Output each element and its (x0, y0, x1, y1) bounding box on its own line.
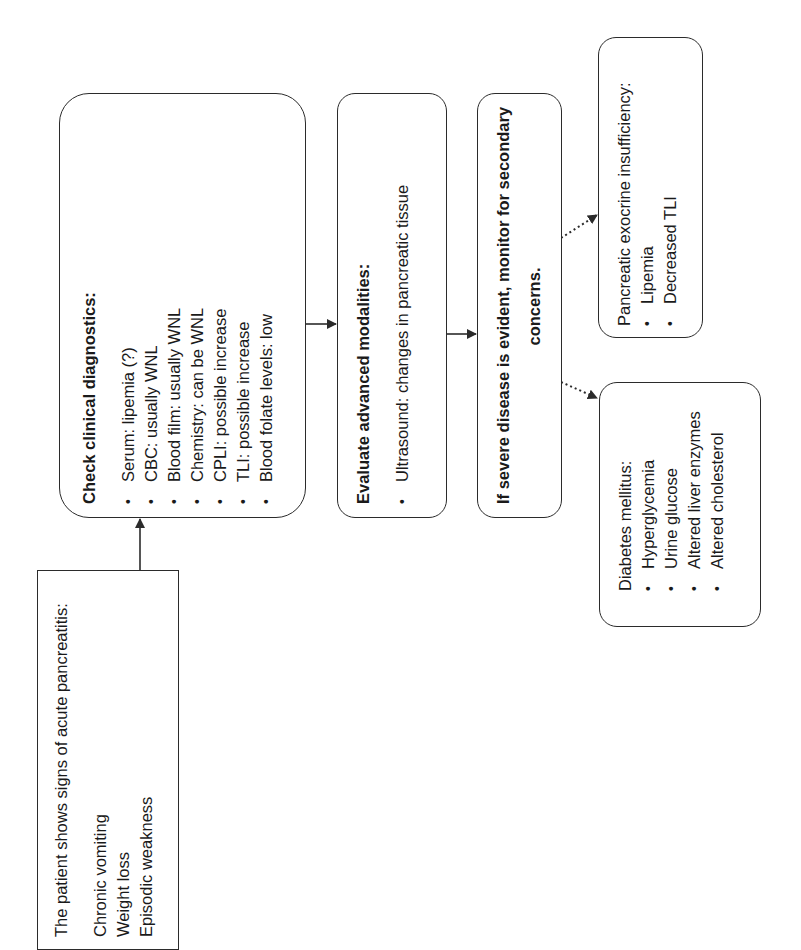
bullet-icon: • (391, 482, 414, 504)
bullet-icon: • (659, 304, 682, 326)
diabetes-item: Hyperglycemia (637, 460, 660, 569)
bullet-icon: • (232, 482, 255, 504)
diabetes-title: Diabetes mellitus: (614, 411, 637, 591)
bullet-icon: • (637, 569, 660, 591)
severe-disease-title-line1: If severe disease is evident, monitor fo… (492, 109, 515, 504)
exocrine-item: Decreased TLI (659, 196, 682, 304)
diagnostic-item: Serum: lipemia (?) (117, 347, 140, 482)
bullet-icon: • (140, 482, 163, 504)
modality-item: Ultrasound: changes in pancreatic tissue (391, 185, 414, 482)
diagnostic-item: Blood film: usually WNL (163, 308, 186, 482)
diagnostic-item: Blood folate levels: low (255, 314, 278, 482)
diabetes-item: Urine glucose (660, 468, 683, 569)
diagnostic-item: Chemistry: can be WNL (186, 308, 209, 482)
bullet-icon: • (209, 482, 232, 504)
bullet-icon: • (660, 569, 683, 591)
severe-disease-title-line2: concerns. (515, 109, 546, 504)
exocrine-item: Lipemia (636, 246, 659, 304)
symptom-item: Episodic weakness (135, 603, 158, 937)
clinical-diagnostics-box: Check clinical diagnostics: •Serum: lipe… (59, 93, 306, 518)
symptom-item: Weight loss (112, 603, 135, 937)
diagnostic-item: CBC: usually WNL (140, 345, 163, 482)
bullet-icon: • (636, 304, 659, 326)
bullet-icon: • (117, 482, 140, 504)
diabetes-box: Diabetes mellitus: •Hyperglycemia •Urine… (599, 382, 761, 627)
dotted-arrow-to-diabetes (561, 382, 597, 398)
bullet-icon: • (163, 482, 186, 504)
diabetes-item: Altered liver enzymes (683, 411, 706, 569)
patient-signs-box: The patient shows signs of acute pancrea… (37, 570, 179, 950)
exocrine-insufficiency-box: Pancreatic exocrine insufficiency: •Lipe… (598, 37, 703, 338)
diagnostic-item: CPLI: possible increase (209, 309, 232, 482)
bullet-icon: • (706, 569, 729, 591)
bullet-icon: • (683, 569, 706, 591)
exocrine-insufficiency-title: Pancreatic exocrine insufficiency: (613, 82, 636, 326)
advanced-modalities-box: Evaluate advanced modalities: •Ultrasoun… (337, 93, 447, 518)
severe-disease-box: If severe disease is evident, monitor fo… (477, 93, 562, 518)
patient-signs-title: The patient shows signs of acute pancrea… (50, 603, 73, 937)
bullet-icon: • (186, 482, 209, 504)
advanced-modalities-title: Evaluate advanced modalities: (352, 185, 375, 504)
diabetes-item: Altered cholesterol (706, 432, 729, 569)
diagnostic-item: TLI: possible increase (232, 322, 255, 483)
bullet-icon: • (255, 482, 278, 504)
dotted-arrow-to-exocrine (561, 215, 597, 238)
symptom-item: Chronic vomiting (89, 603, 112, 937)
clinical-diagnostics-title: Check clinical diagnostics: (78, 292, 101, 504)
